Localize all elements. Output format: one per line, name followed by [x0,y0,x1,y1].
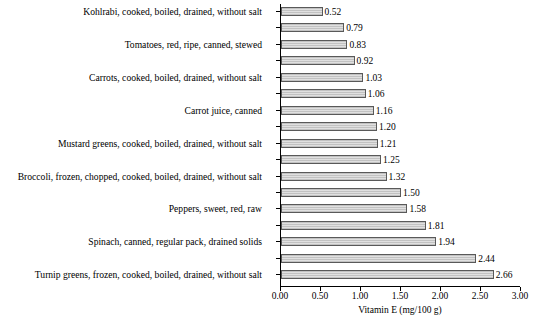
y-axis-tick [276,77,280,78]
bar-row: Turnip greens, frozen, cooked, boiled, d… [0,267,540,283]
bar-row: Tomatoes, red, ripe, canned, stewed0.83 [0,37,540,53]
category-label: Peppers, sweet, red, raw [169,201,262,217]
bar-row: 1.20 [0,119,540,135]
bar [281,56,355,65]
bar-value-label: 1.20 [379,119,396,135]
y-axis-tick [276,60,280,61]
bar-value-label: 1.03 [365,70,382,86]
bar [281,237,436,246]
bar-value-label: 1.06 [368,86,385,102]
category-label: Spinach, canned, regular pack, drained s… [88,234,262,250]
category-label: Turnip greens, frozen, cooked, boiled, d… [35,267,262,283]
bar-value-label: 1.94 [438,234,455,250]
category-label: Carrots, cooked, boiled, drained, withou… [89,70,262,86]
y-axis-tick [276,110,280,111]
bar [281,204,407,213]
category-label: Mustard greens, cooked, boiled, drained,… [58,136,262,152]
bar-value-label: 1.50 [403,185,420,201]
bar [281,106,374,115]
y-axis-tick [276,159,280,160]
bar-row: 1.50 [0,185,540,201]
bar-row: Carrots, cooked, boiled, drained, withou… [0,70,540,86]
bar-row: Spinach, canned, regular pack, drained s… [0,234,540,250]
y-axis-tick [276,241,280,242]
y-axis-tick [276,11,280,12]
bar-value-label: 1.32 [389,169,406,185]
bar [281,188,401,197]
plot-area: Kohlrabi, cooked, boiled, drained, witho… [0,0,540,290]
bar [281,155,381,164]
bar-value-label: 1.21 [380,136,397,152]
bar-row: Carrot juice, canned1.16 [0,103,540,119]
bar-row: 1.81 [0,218,540,234]
x-axis-tick-label: 1.50 [378,291,422,302]
x-axis-tick-label: 0.00 [258,291,302,302]
category-label: Kohlrabi, cooked, boiled, drained, witho… [83,4,262,20]
bar [281,270,494,279]
bar [281,221,426,230]
bar [281,172,387,181]
bar-value-label: 0.92 [357,53,374,69]
y-axis-tick [276,44,280,45]
bar-value-label: 1.25 [383,152,400,168]
bar-value-label: 1.16 [376,103,393,119]
y-axis-tick [276,192,280,193]
bar-value-label: 0.83 [349,37,366,53]
y-axis-tick [276,176,280,177]
y-axis-tick [276,27,280,28]
y-axis-tick [276,274,280,275]
x-axis-tick-label: 3.00 [498,291,540,302]
x-axis-tick-label: 1.00 [338,291,382,302]
bar-row: Kohlrabi, cooked, boiled, drained, witho… [0,4,540,20]
x-axis-tick-label: 0.50 [298,291,342,302]
bar [281,89,366,98]
bar [281,122,377,131]
bar [281,23,344,32]
bar-value-label: 2.66 [496,267,513,283]
bar-row: Mustard greens, cooked, boiled, drained,… [0,136,540,152]
bar-row: 2.44 [0,251,540,267]
bar-value-label: 1.58 [409,201,426,217]
y-axis-tick [276,208,280,209]
bar-row: 0.92 [0,53,540,69]
bar-row: 1.25 [0,152,540,168]
bar-value-label: 0.52 [325,4,342,20]
bar [281,139,378,148]
y-axis-tick [276,225,280,226]
x-axis-title: Vitamin E (mg/100 g) [280,305,520,315]
bar-row: 0.79 [0,20,540,36]
bar-row: Peppers, sweet, red, raw1.58 [0,201,540,217]
category-label: Tomatoes, red, ripe, canned, stewed [125,37,262,53]
y-axis-tick [276,93,280,94]
bar [281,73,363,82]
x-axis-tick-label: 2.00 [418,291,462,302]
category-label: Carrot juice, canned [184,103,262,119]
bar-value-label: 2.44 [478,251,495,267]
y-axis-tick [276,258,280,259]
y-axis-tick [276,143,280,144]
bar [281,254,476,263]
category-label: Broccoli, frozen, chopped, cooked, boile… [18,169,262,185]
bar-value-label: 1.81 [428,218,445,234]
bar-row: 1.06 [0,86,540,102]
bar-chart: Kohlrabi, cooked, boiled, drained, witho… [0,0,540,321]
x-axis-tick-label: 2.50 [458,291,502,302]
y-axis-tick [276,126,280,127]
bar-row: Broccoli, frozen, chopped, cooked, boile… [0,169,540,185]
bar [281,7,323,16]
bar-value-label: 0.79 [346,20,363,36]
bar [281,40,347,49]
